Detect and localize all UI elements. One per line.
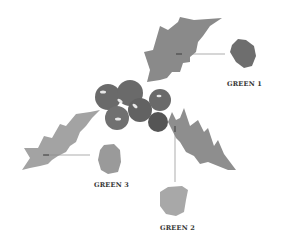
label-green3: GREEN 3 xyxy=(94,181,129,189)
illustration xyxy=(0,0,281,252)
label-green1: GREEN 1 xyxy=(227,80,262,88)
swatch-green2 xyxy=(160,186,188,216)
holly-color-diagram: GREEN 1 GREEN 2 GREEN 3 xyxy=(0,0,281,252)
holly-berries-icon xyxy=(95,80,171,132)
swatch-green3 xyxy=(98,144,121,174)
holly-leaf-left-icon xyxy=(22,110,100,170)
label-green2: GREEN 2 xyxy=(160,224,195,232)
holly-leaf-top-icon xyxy=(144,17,222,82)
holly-leaf-right-icon xyxy=(168,108,236,170)
swatch-green1 xyxy=(230,39,256,68)
